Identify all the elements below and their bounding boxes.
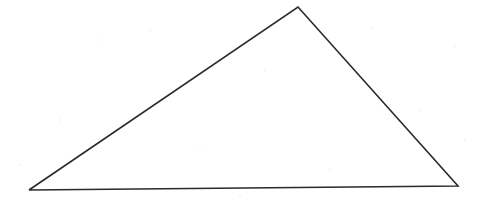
triangle-figure (0, 0, 478, 200)
figure-canvas: Triangle Obtuse scalene triangle outline (0, 0, 478, 200)
triangle-outline-path (29, 7, 458, 190)
